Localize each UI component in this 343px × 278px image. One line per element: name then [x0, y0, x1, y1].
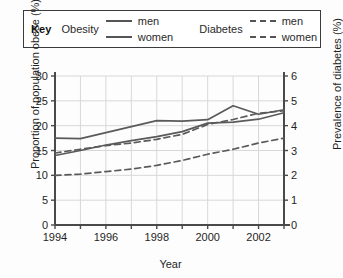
- svg-text:2000: 2000: [195, 231, 219, 243]
- svg-text:1994: 1994: [43, 231, 67, 243]
- axis-ticks: 051015202530012345619941996199820002002: [36, 70, 297, 243]
- svg-text:5: 5: [42, 194, 48, 206]
- svg-text:5: 5: [291, 95, 297, 107]
- data-series: [55, 106, 284, 176]
- svg-text:1: 1: [291, 194, 297, 206]
- svg-text:30: 30: [36, 70, 48, 82]
- series-line-diabetes-women: [55, 138, 284, 175]
- svg-text:3: 3: [291, 145, 297, 157]
- svg-text:15: 15: [36, 145, 48, 157]
- svg-text:6: 6: [291, 70, 297, 82]
- svg-text:25: 25: [36, 95, 48, 107]
- svg-text:10: 10: [36, 169, 48, 181]
- svg-text:2: 2: [291, 169, 297, 181]
- svg-text:1998: 1998: [145, 231, 169, 243]
- svg-text:4: 4: [291, 120, 297, 132]
- series-line-diabetes-men: [55, 111, 284, 153]
- svg-text:0: 0: [291, 219, 297, 231]
- svg-text:20: 20: [36, 120, 48, 132]
- svg-text:1996: 1996: [94, 231, 118, 243]
- svg-text:2002: 2002: [246, 231, 270, 243]
- gridlines: [55, 76, 284, 225]
- svg-text:0: 0: [42, 219, 48, 231]
- series-line-obesity-women: [55, 113, 284, 156]
